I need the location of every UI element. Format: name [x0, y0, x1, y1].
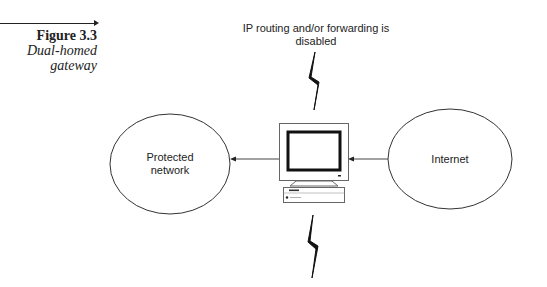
connector-from-internet — [348, 157, 388, 162]
protected-network-node: Protected network — [110, 114, 230, 214]
protected-network-label-line2: network — [151, 164, 190, 176]
internet-label: Internet — [431, 153, 468, 165]
arrowhead-left-icon — [230, 157, 236, 162]
top-annotation-line2: disabled — [296, 35, 337, 47]
connector-to-protected-network — [230, 157, 279, 162]
lightning-bolt-top-icon — [309, 52, 319, 110]
top-annotation-line1: IP routing and/or forwarding is — [243, 22, 390, 34]
lightning-bolt-bottom-icon — [308, 215, 318, 278]
computer-icon — [280, 124, 349, 203]
internet-node: Internet — [388, 109, 512, 209]
protected-network-label-line1: Protected — [146, 151, 193, 163]
dual-homed-gateway-diagram: IP routing and/or forwarding is disabled… — [0, 0, 547, 287]
